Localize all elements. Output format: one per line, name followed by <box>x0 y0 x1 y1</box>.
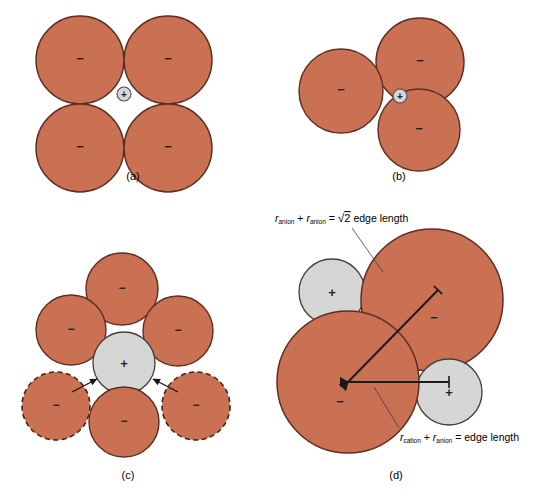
ion-sign-minus: − <box>76 139 84 154</box>
ion-sign-minus: − <box>118 281 125 295</box>
ionic-packing-figure: − − − − + (a) − <box>0 0 533 497</box>
ion-sign-minus: − <box>174 323 181 337</box>
anion-lower-right: − <box>378 89 460 171</box>
ion-sign-minus: − <box>164 51 172 66</box>
figure-root: − − − − + (a) − <box>0 0 533 497</box>
ion-sign-plus: + <box>121 89 127 100</box>
ion-sign-minus: − <box>52 398 59 412</box>
ion-sign-minus: − <box>120 414 127 428</box>
anion-anion-equation-label: ranion + ranion = √2 edge length <box>275 211 408 225</box>
anion-bottom-left: − <box>36 104 124 192</box>
panel-caption-b: (b) <box>392 170 405 182</box>
ion-sign-minus: − <box>430 310 438 325</box>
cation-lower-right: + <box>416 359 482 425</box>
ion-sign-minus: − <box>337 82 345 97</box>
ion-sign-minus: − <box>164 139 172 154</box>
ion-sign-plus: + <box>445 385 453 400</box>
ion-sign-plus: + <box>120 356 128 371</box>
cation-center: + <box>393 89 407 103</box>
anion-top-left: − <box>36 16 124 104</box>
panel-caption-d: (d) <box>389 469 402 481</box>
anion-top-right: − <box>124 16 212 104</box>
anion-bottom: − <box>89 387 159 457</box>
cation-center: + <box>93 332 155 394</box>
ion-sign-minus: − <box>67 322 74 336</box>
panel-caption-a: (a) <box>126 170 139 182</box>
ion-sign-minus: − <box>336 394 344 409</box>
ion-sign-plus: + <box>328 285 336 300</box>
ion-sign-minus: − <box>415 121 423 136</box>
ion-sign-plus: + <box>397 91 403 102</box>
anion-dashed-right: − <box>162 372 230 440</box>
anion-dashed-left: − <box>22 372 90 440</box>
ion-sign-minus: − <box>416 53 424 68</box>
ion-sign-minus: − <box>76 51 84 66</box>
cation-center: + <box>117 87 131 101</box>
anion-left: − <box>299 49 383 133</box>
ion-sign-minus: − <box>192 398 199 412</box>
panel-caption-c: (c) <box>122 469 135 481</box>
